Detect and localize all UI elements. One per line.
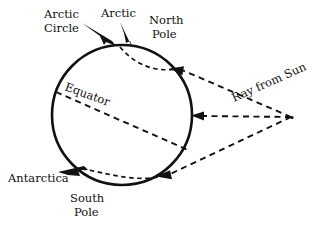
sun-convergence-point [290, 116, 293, 119]
label-south-pole-line1: South [70, 191, 105, 205]
label-arctic-circle-line1: Arctic [43, 7, 79, 21]
sun-ray-lower [168, 117, 291, 175]
equator-line [56, 92, 188, 150]
label-arctic: Arctic [100, 6, 136, 20]
antarctic-circle-arc [82, 169, 158, 178]
sun-ray-arrowheads [156, 66, 204, 179]
arctic-circle-arrow [82, 23, 116, 46]
label-arctic-circle-line2: Circle [44, 21, 79, 35]
earth-sun-ray-diagram: Arctic Circle Arctic North Pole Equator … [0, 0, 312, 225]
arctic-circle-pointer [82, 23, 116, 46]
sun-ray-middle [202, 116, 291, 117]
diagram-canvas: Arctic Circle Arctic North Pole Equator … [0, 0, 312, 225]
label-antarctica: Antarctica [7, 171, 69, 185]
earth-circle-outline [52, 45, 192, 185]
label-equator: Equator [63, 80, 112, 109]
label-ray-from-sun: Ray from Sun [230, 59, 309, 105]
label-south-pole-line2: Pole [74, 205, 99, 219]
label-north-pole-line2: Pole [152, 27, 177, 41]
label-north-pole-line1: North [149, 13, 184, 27]
